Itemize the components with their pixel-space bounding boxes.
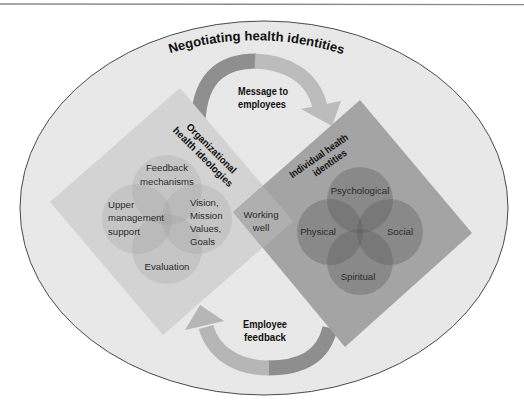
upper-management-line1: Upper <box>108 199 135 210</box>
upper-management-line2: management <box>108 212 164 223</box>
feedback-label-line2: mechanisms <box>140 176 194 187</box>
feedback-label-line1: Employee <box>243 319 287 330</box>
psychological-label: Psychological <box>331 185 390 196</box>
top-rule <box>0 4 524 5</box>
physical-label: Physical <box>300 226 336 237</box>
message-label-line2: employees <box>238 99 286 110</box>
message-label-line1: Message to <box>238 86 288 97</box>
working-well-line1: Working <box>243 209 278 220</box>
evaluation-label: Evaluation <box>145 261 190 272</box>
vision-line3: Values, <box>190 223 221 234</box>
vision-line2: Mission <box>190 210 223 221</box>
upper-management-line3: support <box>108 226 140 237</box>
vision-line1: Vision, <box>190 197 219 208</box>
evaluation-line1: Evaluation <box>145 261 190 272</box>
working-well-line2: well <box>252 222 270 233</box>
health-identities-diagram: Negotiating health identities Message to… <box>0 0 524 410</box>
feedback-label-line1: Feedback <box>146 162 188 173</box>
spiritual-label: Spiritual <box>341 271 376 282</box>
social-label: Social <box>387 226 413 237</box>
vision-line4: Goals <box>190 236 215 247</box>
feedback-label-line2: feedback <box>244 332 286 343</box>
spiritual-circle <box>327 229 393 295</box>
